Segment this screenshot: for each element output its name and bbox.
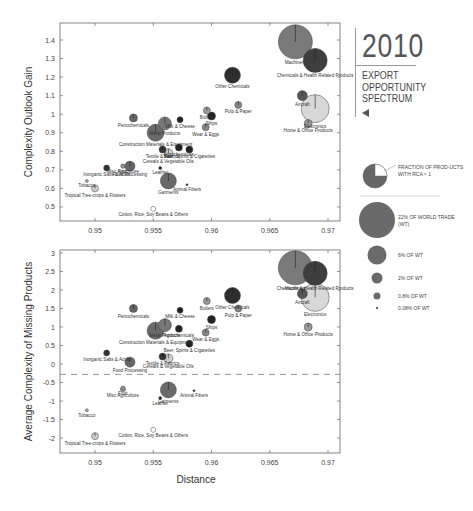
bubble-label: Home & Office Products (284, 128, 334, 133)
y-tick-label: 0 (51, 361, 55, 368)
legend-size-circle (376, 307, 378, 309)
bubble-point[interactable] (85, 179, 88, 182)
bubble-label: Tropical Tree-crops & Flowers (64, 441, 126, 446)
x-tick-label: 0.965 (261, 227, 279, 234)
y-tick-label: 1.5 (45, 305, 55, 312)
bubble-label: Inorganic Salts & Acids (83, 357, 131, 362)
bubble-label: Wear & Eggs (192, 132, 220, 137)
y-tick-label: -2 (49, 435, 55, 442)
bubble-label: Misc Agriculture (107, 393, 140, 398)
bubble-label: Petrochemicals (118, 314, 150, 319)
bubble-label: Other Chemicals (215, 305, 250, 310)
y-tick-label: 2.5 (45, 268, 55, 275)
bubble-label: Metal Products (150, 131, 181, 136)
bubble-point[interactable] (121, 386, 125, 390)
y-tick-label: 1.1 (45, 92, 55, 99)
bubble-label: Aircraft (295, 102, 310, 107)
x-tick-label: 0.96 (205, 459, 219, 466)
legend-size-0-label: 22% OF WORLD TRADE (WT) (398, 214, 460, 228)
title-panel: 2010 EXPORT OPPORTUNITY SPECTRUM (355, 28, 470, 117)
y-tick-label: 0.7 (45, 166, 55, 173)
bubble-label: Ships (206, 121, 218, 126)
y-tick-label: -0.5 (43, 379, 55, 386)
chart-panel-0: 0.950.9550.960.9650.970.50.60.70.80.911.… (23, 23, 354, 234)
bubble-label: Cereals & Vegetable Oils (143, 159, 195, 164)
x-tick-label: 0.955 (144, 227, 162, 234)
bubble-label: Construction Materials & Equipment (119, 340, 193, 345)
bubble-point[interactable] (186, 184, 188, 186)
bubble-label: Beer, Spirits & Cigarettes (164, 348, 216, 353)
y-tick-label: -1 (49, 398, 55, 405)
bubble-label: Leather (152, 170, 168, 175)
bubble-label: Pulp & Paper (225, 109, 253, 114)
x-tick-label: 0.97 (321, 227, 335, 234)
bubble-label: Inorganic Salts & Acids (83, 172, 131, 177)
legend-size-circle (374, 293, 381, 300)
bubble-point[interactable] (151, 206, 156, 211)
bubble-label: Boilers (200, 115, 215, 120)
legend-fraction-label: FRACTION OF PROD-UCTS WITH RCA > 1 (398, 164, 468, 178)
bubble-label: Food Processing (113, 368, 148, 373)
y-tick-label: -1.5 (43, 416, 55, 423)
bubble-label: Cereals & Vegetable Oils (143, 364, 195, 369)
bubble-label: Petrochemicals (118, 123, 150, 128)
bubble-label: Tobacco (78, 413, 96, 418)
bubble-label: Wear & Eggs (192, 337, 220, 342)
x-tick-label: 0.95 (88, 459, 102, 466)
bubble-label: Pulp & Paper (225, 313, 253, 318)
bubble-label: Animal Fibers (173, 187, 202, 192)
y-tick-label: 1.2 (45, 74, 55, 81)
bubble-label: Construction Materials & Equipment (119, 142, 193, 147)
bubble-label: Tobacco (78, 183, 96, 188)
bubble-label: Cotton, Rice, Soy Beans & Others (119, 433, 189, 438)
bubble-label: Milk & Cheese (165, 124, 195, 129)
bubble-label: Electronics (304, 312, 327, 317)
y-tick-label: 0.8 (45, 148, 55, 155)
y-tick-label: 0.6 (45, 185, 55, 192)
y-axis-label: Average Complexity of Missing Products (23, 262, 34, 441)
bubble-label: Chemicals & Health Related Products (277, 286, 355, 291)
bubble-label: Milk & Cheese (165, 314, 195, 319)
y-tick-label: 1 (51, 111, 55, 118)
x-tick-label: 0.955 (144, 459, 162, 466)
bubble-point[interactable] (159, 166, 162, 169)
bubble-label: Ships (206, 325, 218, 330)
bubble-label: Other Chemicals (215, 84, 250, 89)
x-tick-label: 0.96 (205, 227, 219, 234)
legend-size-2-label: 2% OF WT (398, 275, 423, 282)
y-tick-label: 3 (51, 250, 55, 257)
y-tick-label: 0.9 (45, 129, 55, 136)
y-axis-label: Complexity Outlook Gain (23, 67, 34, 178)
bubble-label: Cotton, Rice, Soy Beans & Others (119, 212, 189, 217)
bubble-label: Tropical Tree-crops & Flowers (64, 193, 126, 198)
year-title: 2010 (362, 28, 446, 62)
x-tick-label: 0.97 (321, 459, 335, 466)
bubble-point[interactable] (151, 427, 156, 432)
y-tick-label: 1 (51, 324, 55, 331)
legend-size-circle (372, 273, 383, 284)
legend (359, 164, 440, 309)
bubble-label: Animal Fibers (180, 393, 209, 398)
legend-size-circle (368, 246, 387, 265)
bubble-point[interactable] (85, 409, 88, 412)
legend-size-circle (359, 202, 395, 238)
x-axis-label: Distance (177, 474, 216, 485)
chart-panel-1: 0.950.9550.960.9650.97-2-1.5-1-0.500.511… (23, 250, 354, 486)
bubble-label: Machinery (285, 60, 307, 65)
x-tick-label: 0.95 (88, 227, 102, 234)
title-line-3: SPECTRUM (362, 93, 454, 105)
legend-size-4-label: 0.08% OF WT (398, 305, 430, 312)
bubble-point[interactable] (193, 390, 195, 392)
back-arrow-icon[interactable] (362, 109, 369, 117)
x-tick-label: 0.965 (261, 459, 279, 466)
legend-size-3-label: 0.8% OF WT (398, 293, 427, 300)
legend-size-1-label: 6% OF WT (398, 252, 423, 259)
bubble-label: Boilers (200, 306, 215, 311)
bubble-point[interactable] (121, 164, 125, 168)
y-tick-label: 1.4 (45, 37, 55, 44)
bubble-label: Agrochemicals (164, 333, 195, 338)
bubble-label: Aircraft (295, 300, 310, 305)
bubble-label: Chemicals & Health Related Products (277, 73, 355, 78)
y-tick-label: 0.5 (45, 203, 55, 210)
bubble-label: Home & Office Products (284, 332, 334, 337)
